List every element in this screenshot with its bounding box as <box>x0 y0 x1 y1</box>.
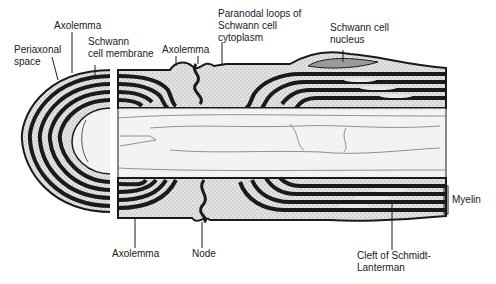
label-cleft-schmidt-lanterman: Cleft of Schmidt- Lanterman <box>357 250 431 274</box>
left-fiber-end <box>22 70 112 212</box>
label-axolemma-bottom: Axolemma <box>112 248 159 260</box>
fiber-body <box>118 52 446 222</box>
label-line: Schwann cell <box>330 22 389 34</box>
label-schwann-cell-membrane: Schwann cell membrane <box>88 36 154 60</box>
label-line: Schwann <box>88 36 154 48</box>
label-node: Node <box>192 248 216 260</box>
label-line: space <box>14 56 61 68</box>
label-line: Lanterman <box>357 262 431 274</box>
label-periaxonal-space: Periaxonal space <box>14 44 61 68</box>
label-line: Periaxonal <box>14 44 61 56</box>
label-line: cytoplasm <box>218 32 301 44</box>
label-line: Cleft of Schmidt- <box>357 250 431 262</box>
label-myelin: Myelin <box>452 194 481 206</box>
label-line: Paranodal loops of <box>218 8 301 20</box>
label-line: cell membrane <box>88 48 154 60</box>
label-line: Schwann cell <box>218 20 301 32</box>
label-axolemma-top-left: Axolemma <box>54 20 101 32</box>
label-paranodal-loops: Paranodal loops of Schwann cell cytoplas… <box>218 8 301 44</box>
label-schwann-cell-nucleus: Schwann cell nucleus <box>330 22 389 46</box>
label-line: nucleus <box>330 34 389 46</box>
section-gap <box>110 60 116 220</box>
label-axolemma-top-mid: Axolemma <box>162 44 209 56</box>
